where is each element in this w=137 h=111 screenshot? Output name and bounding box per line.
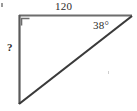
unknown-side-label: ? <box>7 42 13 53</box>
triangle-side-hypotenuse <box>19 16 132 104</box>
right-triangle-diagram: 120 38° ? <box>0 0 137 111</box>
triangle-drawing <box>0 0 137 111</box>
angle-measure-label: 38° <box>93 20 109 31</box>
side-length-label-top: 120 <box>55 1 72 12</box>
right-angle-square-icon <box>22 19 30 26</box>
scan-artifact-speck-center <box>108 71 109 74</box>
scan-artifact-speck-top-left <box>1 3 3 7</box>
